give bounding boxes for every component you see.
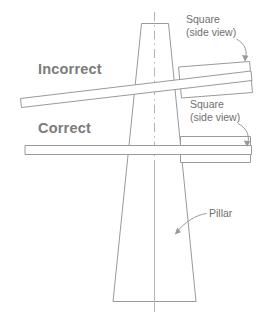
square-top-label-line2: (side view): [186, 26, 236, 38]
square-top-label-line1: Square: [186, 13, 220, 25]
diagram-canvas: Incorrect Correct Square (side view) Squ…: [0, 0, 267, 323]
pillar-label: Pillar: [209, 207, 232, 219]
correct-label: Correct: [38, 120, 91, 137]
square-bottom-label-line2: (side view): [190, 111, 240, 123]
diagram-graphics: [0, 0, 267, 323]
square-top-arrowhead: [242, 55, 248, 62]
correct-level-bar: [25, 146, 252, 155]
incorrect-label: Incorrect: [38, 61, 102, 78]
square-bottom-label-line1: Square: [190, 98, 224, 110]
